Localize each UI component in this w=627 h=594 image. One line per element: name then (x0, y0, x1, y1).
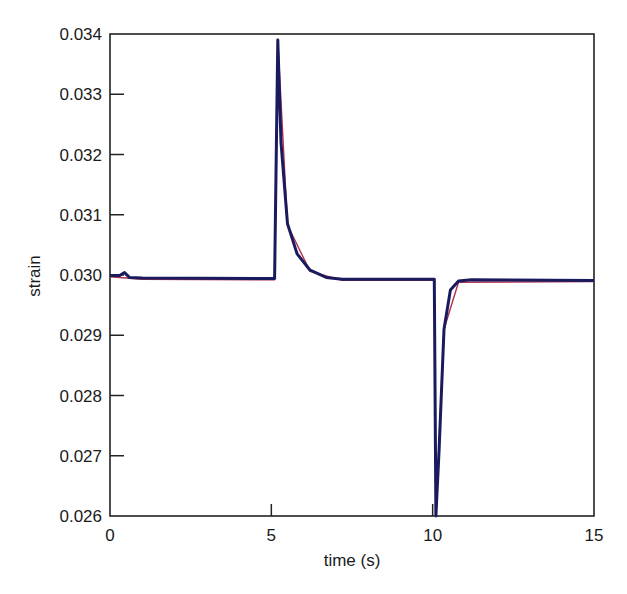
y-axis-label: strain (25, 255, 44, 297)
y-tick-label: 0.032 (59, 146, 102, 165)
x-tick-label: 5 (267, 526, 276, 545)
x-axis-label: time (s) (324, 551, 381, 570)
y-tick-label: 0.034 (59, 25, 102, 44)
x-tick-label: 10 (423, 526, 442, 545)
y-tick-label: 0.026 (59, 507, 102, 526)
y-tick-label: 0.033 (59, 85, 102, 104)
plot-frame (110, 34, 594, 516)
y-tick-label: 0.031 (59, 206, 102, 225)
strain-time-chart: 0.0260.0270.0280.0290.0300.0310.0320.033… (0, 0, 627, 594)
y-tick-label: 0.028 (59, 387, 102, 406)
y-tick-label: 0.030 (59, 266, 102, 285)
x-tick-label: 0 (105, 526, 114, 545)
y-tick-label: 0.027 (59, 447, 102, 466)
x-tick-label: 15 (585, 526, 604, 545)
y-tick-label: 0.029 (59, 326, 102, 345)
